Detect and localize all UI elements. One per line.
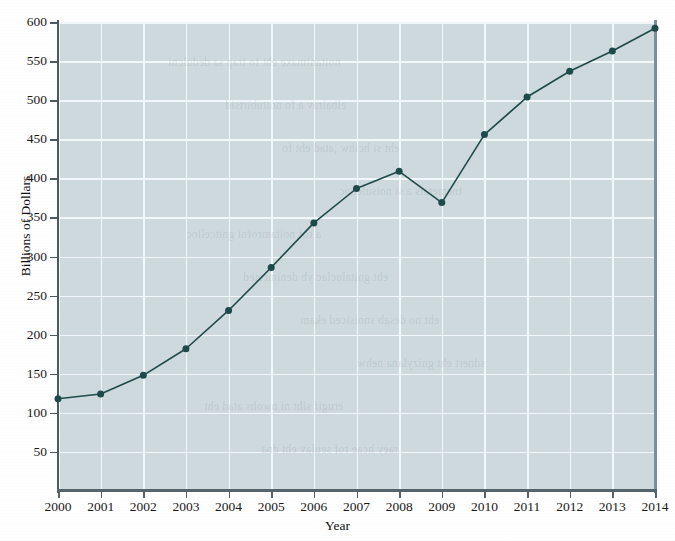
x-tick-label: 2006: [291, 500, 337, 514]
gridline-vertical: [186, 22, 188, 491]
x-tick-label: 2002: [120, 500, 166, 514]
x-tick-mark: [612, 492, 614, 498]
gridline-vertical: [357, 22, 359, 491]
x-tick-label: 2008: [376, 500, 422, 514]
line-chart-figure: noitanimaxe eht fo trap sa dedulcnielbai…: [0, 0, 675, 541]
x-tick-mark: [229, 492, 231, 498]
gridline-vertical: [229, 22, 231, 491]
x-tick-mark: [655, 492, 657, 498]
x-tick-label: 2013: [589, 500, 635, 514]
x-tick-label: 2010: [461, 500, 507, 514]
x-tick-label: 2009: [419, 500, 465, 514]
x-tick-mark: [58, 492, 60, 498]
plot-right-border: [654, 20, 657, 493]
x-tick-label: 2003: [163, 500, 209, 514]
x-tick-mark: [527, 492, 529, 498]
x-tick-mark: [271, 492, 273, 498]
x-tick-label: 2012: [547, 500, 593, 514]
bleedthrough-line: sdnert eht gnizylana nehw: [357, 357, 485, 369]
bleedthrough-line: eht gnitaluclac yb denimreted: [243, 271, 388, 283]
bleedthrough-line: eht no desab snoisiced ekam: [300, 314, 439, 326]
x-tick-mark: [314, 492, 316, 498]
x-tick-mark: [399, 492, 401, 498]
x-tick-label: 2004: [206, 500, 252, 514]
bleedthrough-line: erugif siht ni nwohs atad eht: [204, 400, 343, 412]
gridline-vertical: [101, 22, 103, 491]
x-tick-label: 2005: [248, 500, 294, 514]
x-tick-label: 2000: [35, 500, 81, 514]
gridline-vertical: [484, 22, 486, 491]
gridline-vertical: [527, 22, 529, 491]
y-axis-label: Billions of Dollars: [18, 156, 34, 296]
y-tick-label: 50: [0, 445, 58, 459]
bleedthrough-line: a rof noitamrofni gnitcelloc: [186, 228, 321, 240]
x-tick-label: 2007: [334, 500, 380, 514]
gridline-vertical: [399, 22, 401, 491]
bleedthrough-line: eht si hcihw ,atad eht fo: [282, 142, 399, 154]
x-tick-mark: [143, 492, 145, 498]
x-tick-mark: [570, 492, 572, 498]
y-tick-label: 150: [0, 367, 58, 381]
y-tick-label: 600: [0, 15, 58, 29]
x-tick-label: 2011: [504, 500, 550, 514]
x-tick-mark: [186, 492, 188, 498]
y-tick-label: 100: [0, 406, 58, 420]
gridline-vertical: [442, 22, 444, 491]
y-tick-label: 550: [0, 54, 58, 68]
gridline-vertical: [271, 22, 273, 491]
x-tick-mark: [357, 492, 359, 498]
x-tick-mark: [101, 492, 103, 498]
x-tick-label: 2001: [78, 500, 124, 514]
gridline-vertical: [570, 22, 572, 491]
x-tick-mark: [484, 492, 486, 498]
y-tick-label: 200: [0, 328, 58, 342]
gridline-vertical: [143, 22, 145, 491]
x-tick-label: 2014: [632, 500, 675, 514]
plot-area: noitanimaxe eht fo trap sa dedulcnielbai…: [58, 22, 656, 491]
y-tick-label: 450: [0, 132, 58, 146]
gridline-vertical: [612, 22, 614, 491]
gridline-vertical: [314, 22, 316, 491]
y-tick-label: 500: [0, 93, 58, 107]
x-axis-label: Year: [0, 518, 675, 534]
x-tick-mark: [442, 492, 444, 498]
